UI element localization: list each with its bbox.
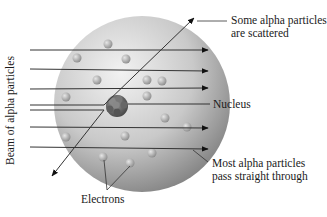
straight-label: Most alpha particles pass straight throu… [212,157,308,183]
nucleus-icon [106,95,128,117]
electron-icon [73,54,82,63]
electrons-label: Electrons [81,193,124,206]
scattered-label: Some alpha particles are scattered [231,14,327,40]
electron-icon [99,153,108,162]
beam-label: Beam of alpha particles [4,56,16,165]
nucleus-label: Nucleus [213,98,251,111]
electron-icon [104,40,113,49]
electron-icon [62,133,71,142]
electron-icon [122,55,131,64]
electron-icon [183,123,192,132]
electron-icon [158,77,167,86]
electron-icon [161,114,170,123]
electron-icon [121,132,130,141]
electron-icon [93,76,102,85]
electron-icon [148,149,157,158]
electron-icon [62,93,71,102]
electron-icon [143,92,152,101]
electron-icon [143,76,152,85]
